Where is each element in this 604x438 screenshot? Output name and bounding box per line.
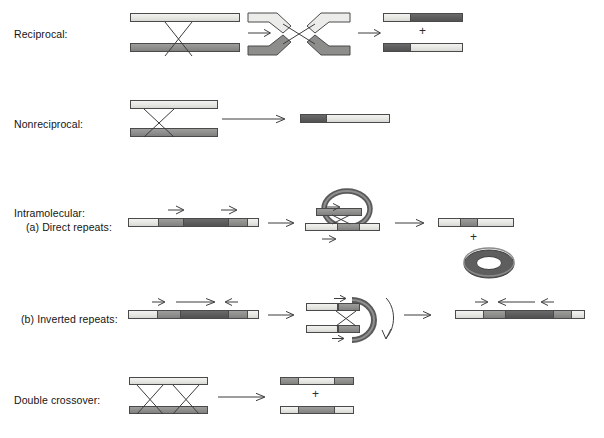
segment-light-left xyxy=(439,219,461,226)
repeat-arrow-left-icon xyxy=(540,297,560,307)
segment-light-left xyxy=(129,311,158,318)
segment-inverted-core xyxy=(506,311,554,318)
segment-dark-right xyxy=(335,378,353,384)
segment-light-left xyxy=(129,219,159,226)
row-nonreciprocal: Nonreciprocal: xyxy=(0,92,604,162)
segment-light-tail xyxy=(360,224,379,230)
arrow-right-icon xyxy=(395,218,429,228)
segment-dark-left xyxy=(281,378,299,384)
long-arrow-left-icon xyxy=(495,297,543,307)
plus-symbol: + xyxy=(470,230,477,244)
row-reciprocal: Reciprocal: + xyxy=(0,0,604,92)
arrow-right-icon xyxy=(268,218,298,228)
segment-repeat-right xyxy=(229,311,248,318)
row-label-nonreciprocal: Nonreciprocal: xyxy=(14,118,83,130)
row-intramolecular-inverted: (b) Inverted repeats: xyxy=(0,288,604,366)
crossover-x xyxy=(130,13,240,53)
repeat-arrow-right-icon xyxy=(152,297,172,307)
excised-circle xyxy=(460,248,520,282)
product-bar-bottom xyxy=(280,406,354,414)
crossover-x xyxy=(330,215,360,225)
rotation-arrow-icon xyxy=(380,296,404,342)
segment-repeat-left xyxy=(159,219,184,226)
row-intramolecular-direct: Intramolecular: (a) Direct repeats: xyxy=(0,190,604,285)
row-label-inverted-repeats: (b) Inverted repeats: xyxy=(21,313,118,325)
segment-intervening xyxy=(184,219,229,226)
plus-symbol: + xyxy=(419,24,426,38)
segment-light xyxy=(327,115,389,122)
segment-repeat-left xyxy=(158,311,181,318)
row-label-intramolecular: Intramolecular: xyxy=(14,207,85,219)
segment-light-left xyxy=(456,311,484,318)
segment-dark xyxy=(301,115,327,122)
segment-recombinant-repeat xyxy=(461,219,478,226)
arrow-right-icon xyxy=(268,310,298,320)
arrow-right-icon xyxy=(358,28,384,38)
repeat-arrow-right-icon xyxy=(326,202,348,212)
row-label-double-crossover: Double crossover: xyxy=(14,394,100,406)
segment-dark xyxy=(411,14,462,21)
segment-light-right xyxy=(478,219,513,226)
repeat-arrow-left-icon xyxy=(224,297,244,307)
segment-repeat-right xyxy=(554,311,572,318)
plus-symbol: + xyxy=(312,387,319,401)
dna-bar-inverted-repeats xyxy=(128,310,259,319)
segment-light-left xyxy=(281,407,299,413)
repeat-arrow-right-icon xyxy=(221,205,243,215)
product-bar-deletion xyxy=(438,218,514,227)
bent-strand-top-left xyxy=(247,12,367,56)
row-label-reciprocal: Reciprocal: xyxy=(14,28,68,40)
product-bar-bottom xyxy=(383,43,463,52)
repeat-arrow-right-icon xyxy=(475,297,495,307)
segment-repeat-right xyxy=(229,219,248,226)
row-label-direct-repeats: (a) Direct repeats: xyxy=(26,221,112,233)
row-double-crossover: Double crossover: + xyxy=(0,368,604,438)
arrow-right-icon xyxy=(404,310,436,320)
arrow-right-icon xyxy=(222,114,288,124)
arrow-right-icon xyxy=(218,392,270,402)
product-bar-top xyxy=(383,13,463,22)
dna-bar-direct-repeats xyxy=(128,218,259,227)
repeat-arrow-right-icon xyxy=(332,334,352,343)
long-arrow-right-icon xyxy=(176,297,222,307)
segment-light xyxy=(384,14,411,21)
segment-light-right xyxy=(335,407,353,413)
product-bar xyxy=(300,114,390,123)
segment-repeat-left xyxy=(484,311,506,318)
segment-dark-middle xyxy=(299,407,335,413)
segment-light-right xyxy=(248,219,258,226)
repeat-arrow-right-icon xyxy=(322,234,344,244)
segment-dark xyxy=(384,44,411,51)
crossover-x xyxy=(130,100,218,138)
segment-light-right xyxy=(572,311,584,318)
repeat-arrow-right-icon xyxy=(168,205,190,215)
segment-light-right xyxy=(248,311,258,318)
repeat-arrow-right-icon xyxy=(334,294,354,303)
segment-light-middle xyxy=(299,378,335,384)
product-bar-top xyxy=(280,377,354,385)
crossover-x-left xyxy=(129,377,208,414)
crossover-x xyxy=(334,310,360,327)
product-bar-inverted xyxy=(455,310,585,319)
segment-light xyxy=(411,44,462,51)
segment-intervening xyxy=(181,311,229,318)
